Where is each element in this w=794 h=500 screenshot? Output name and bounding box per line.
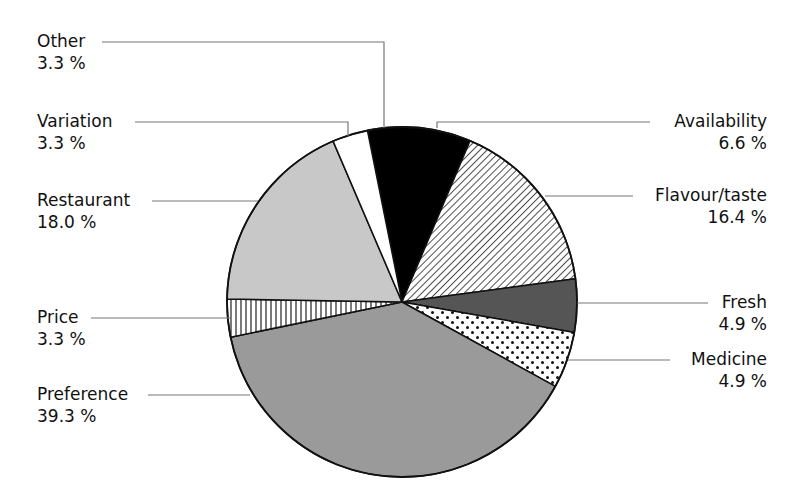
pie-slices: [227, 127, 577, 477]
label-fresh: Fresh 4.9 %: [718, 291, 767, 335]
label-medicine-name: Medicine: [691, 348, 767, 370]
label-restaurant-pct: 18.0 %: [37, 211, 130, 233]
label-variation-name: Variation: [37, 110, 112, 132]
label-price-name: Price: [37, 306, 86, 328]
label-preference-pct: 39.3 %: [37, 405, 128, 427]
label-other-name: Other: [37, 30, 86, 52]
label-availability-pct: 6.6 %: [674, 132, 767, 154]
label-other-pct: 3.3 %: [37, 52, 86, 74]
label-variation: Variation 3.3 %: [37, 110, 112, 154]
label-flavour-name: Flavour/taste: [655, 184, 767, 206]
label-availability-name: Availability: [674, 110, 767, 132]
label-other: Other 3.3 %: [37, 30, 86, 74]
label-restaurant-name: Restaurant: [37, 189, 130, 211]
label-fresh-name: Fresh: [718, 291, 767, 313]
label-medicine: Medicine 4.9 %: [691, 348, 767, 392]
label-price-pct: 3.3 %: [37, 328, 86, 350]
label-medicine-pct: 4.9 %: [691, 370, 767, 392]
label-price: Price 3.3 %: [37, 306, 86, 350]
label-variation-pct: 3.3 %: [37, 132, 112, 154]
leader-other: [102, 42, 384, 128]
label-preference: Preference 39.3 %: [37, 383, 128, 427]
label-restaurant: Restaurant 18.0 %: [37, 189, 130, 233]
label-availability: Availability 6.6 %: [674, 110, 767, 154]
label-flavour: Flavour/taste 16.4 %: [655, 184, 767, 228]
leader-availability: [437, 122, 650, 128]
label-flavour-pct: 16.4 %: [655, 206, 767, 228]
leader-variation: [135, 122, 348, 136]
label-fresh-pct: 4.9 %: [718, 313, 767, 335]
label-preference-name: Preference: [37, 383, 128, 405]
